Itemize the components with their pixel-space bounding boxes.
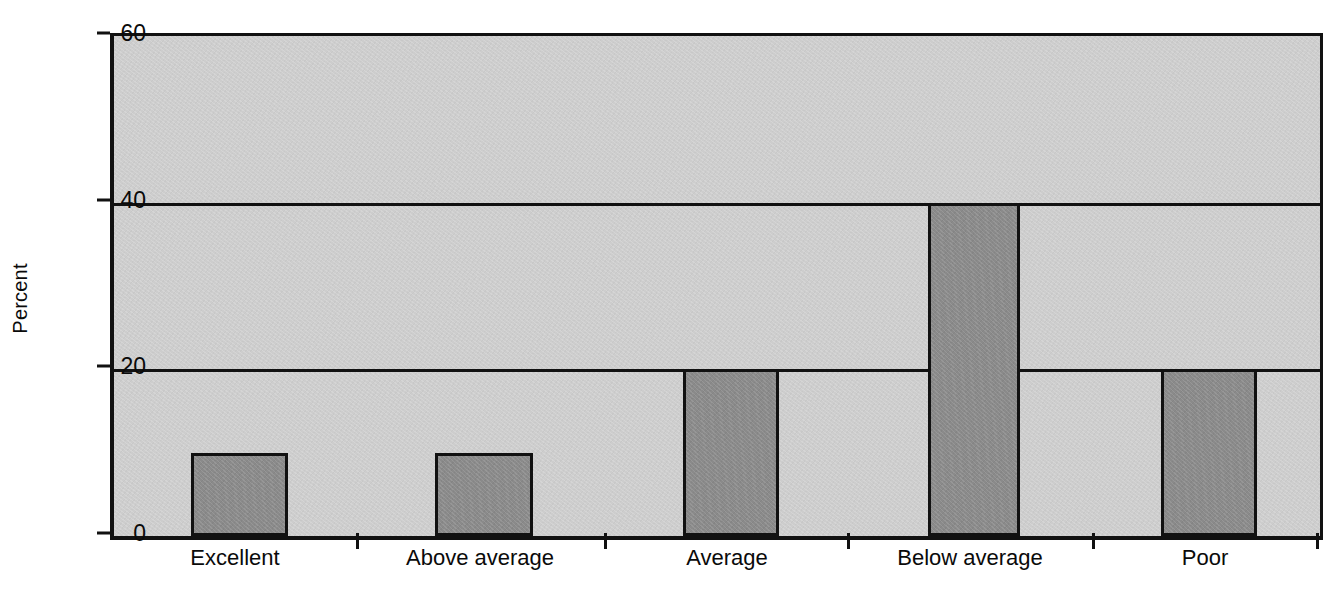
bar-texture xyxy=(931,206,1017,533)
y-axis-title-text: Percent xyxy=(9,263,32,333)
y-tick-label-0: 0 xyxy=(36,520,146,547)
x-tick-label-average: Average xyxy=(686,545,768,571)
x-tick-label-excellent: Excellent xyxy=(190,545,279,571)
y-axis-title: Percent xyxy=(0,0,40,596)
bar-chart: Percent 0204060 ExcellentAbove averageAv… xyxy=(0,0,1335,596)
bar xyxy=(928,203,1020,536)
bar xyxy=(191,453,288,536)
bar xyxy=(1161,369,1257,536)
x-tick-label-above-average: Above average xyxy=(406,545,554,571)
bar-texture xyxy=(438,456,530,533)
y-tick-label-60: 60 xyxy=(36,20,146,47)
x-tick-mark-1 xyxy=(604,533,607,549)
y-tick-label-20: 20 xyxy=(36,353,146,380)
x-tick-mark-3 xyxy=(1092,533,1095,549)
bar-texture xyxy=(686,372,776,533)
bar-texture xyxy=(194,456,285,533)
y-tick-label-40: 40 xyxy=(36,186,146,213)
plot-area xyxy=(110,33,1323,540)
gridline-40 xyxy=(114,203,1320,206)
x-tick-mark-2 xyxy=(847,533,850,549)
x-tick-mark-4 xyxy=(1316,533,1319,549)
bar-texture xyxy=(1164,372,1254,533)
x-tick-label-below-average: Below average xyxy=(897,545,1043,571)
bar xyxy=(683,369,779,536)
bar xyxy=(435,453,533,536)
x-tick-mark-0 xyxy=(356,533,359,549)
x-tick-label-poor: Poor xyxy=(1182,545,1228,571)
